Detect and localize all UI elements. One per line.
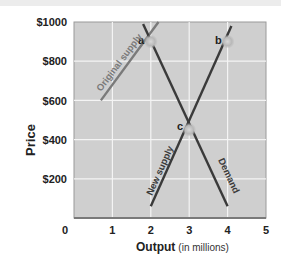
y-tick-800: $800 — [43, 55, 67, 67]
point-b — [221, 35, 235, 49]
x-tick-5: 5 — [263, 224, 269, 236]
x-tick-1: 1 — [109, 224, 115, 236]
supply-demand-chart: a b c Original supply New supply Demand … — [0, 0, 281, 254]
x-axis-sublabel: (in millions) — [178, 242, 229, 253]
x-axis-label-group: Output(in millions) — [136, 240, 229, 254]
x-tick-2: 2 — [148, 224, 154, 236]
y-tick-200: $200 — [43, 173, 67, 185]
x-tick-0: 0 — [62, 224, 68, 236]
x-tick-4: 4 — [225, 224, 232, 236]
point-c — [182, 123, 196, 137]
point-b-label: b — [215, 34, 222, 46]
x-tick-3: 3 — [186, 224, 192, 236]
y-tick-600: $600 — [43, 95, 67, 107]
point-a — [144, 35, 158, 49]
y-tick-1000: $1000 — [36, 16, 67, 28]
y-axis-label: Price — [23, 124, 38, 156]
x-axis-label: Output — [136, 240, 175, 254]
point-c-label: c — [177, 120, 183, 132]
y-tick-400: $400 — [43, 134, 67, 146]
